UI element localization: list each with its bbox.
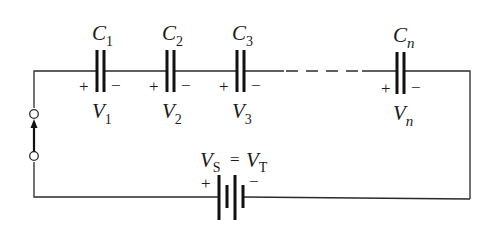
capacitor-c1: C1 + − V1	[79, 21, 121, 127]
svg-text:V2: V2	[162, 99, 182, 127]
voltage-source-battery: VS = VT + −	[200, 148, 268, 220]
svg-text:Cn: Cn	[393, 23, 415, 51]
svg-text:V3: V3	[232, 99, 252, 127]
svg-text:−: −	[249, 172, 259, 191]
svg-text:Vn: Vn	[393, 101, 413, 129]
svg-text:+: +	[219, 77, 229, 96]
svg-text:C2: C2	[162, 21, 183, 49]
svg-text:+: +	[201, 174, 211, 193]
svg-text:+: +	[149, 77, 159, 96]
svg-text:−: −	[111, 76, 121, 95]
terminal-bottom	[30, 152, 39, 161]
terminal-top	[30, 110, 39, 119]
switch-terminals	[30, 110, 39, 161]
arrow-head-icon	[31, 119, 38, 128]
svg-text:C1: C1	[92, 21, 113, 49]
svg-text:+: +	[79, 77, 89, 96]
series-capacitor-circuit: C1 + − V1 C2 + − V2 C3 + − V3 Cn + − Vn …	[0, 0, 496, 235]
capacitor-c2: C2 + − V2	[149, 21, 191, 127]
svg-text:C3: C3	[232, 21, 253, 49]
svg-text:+: +	[381, 79, 391, 98]
capacitor-cn: Cn + − Vn	[381, 23, 421, 129]
svg-text:VS: VS	[200, 148, 221, 175]
svg-text:VT: VT	[246, 148, 268, 175]
svg-text:−: −	[411, 78, 421, 97]
svg-text:V1: V1	[92, 99, 112, 127]
svg-text:−: −	[181, 76, 191, 95]
capacitor-c3: C3 + − V3	[219, 21, 261, 127]
svg-text:=: =	[230, 150, 240, 169]
svg-text:−: −	[251, 76, 261, 95]
